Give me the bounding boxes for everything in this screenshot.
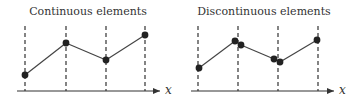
panel-discontinuous: Discontinuous elements x — [191, 5, 346, 97]
element-segment — [241, 45, 274, 59]
x-axis-label: x — [165, 83, 172, 97]
element-segment — [106, 35, 145, 60]
node-dot — [196, 65, 203, 72]
node-dot — [271, 56, 278, 63]
element-comparison-diagram: Continuous elements x Discontinuous elem… — [0, 0, 354, 100]
node-dot — [314, 37, 321, 44]
node-dot — [238, 42, 245, 49]
node-dot — [63, 40, 70, 47]
element-boundaries — [25, 26, 145, 91]
element-segment — [25, 43, 66, 75]
panel-title: Continuous elements — [29, 5, 147, 18]
node-dot — [22, 72, 29, 79]
element-segment — [280, 40, 317, 62]
nodes — [196, 37, 321, 72]
element-segment — [199, 41, 235, 68]
nodes — [22, 32, 149, 79]
panel-continuous: Continuous elements x — [17, 5, 172, 97]
node-dot — [232, 38, 239, 45]
node-dot — [142, 32, 149, 39]
node-dot — [277, 59, 284, 66]
element-segment — [66, 43, 106, 60]
element-segments — [199, 40, 317, 68]
x-axis-label: x — [339, 83, 346, 97]
node-dot — [103, 57, 110, 64]
element-boundaries — [198, 26, 318, 91]
panel-title: Discontinuous elements — [197, 5, 331, 18]
element-segments — [25, 35, 145, 75]
